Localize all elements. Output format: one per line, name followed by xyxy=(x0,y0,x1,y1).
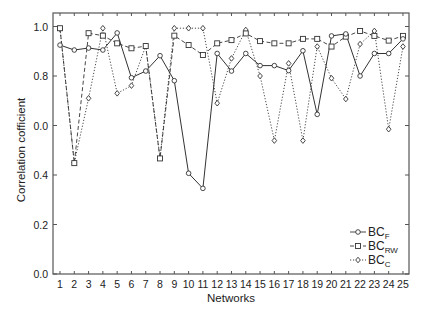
x-tick-label: 15 xyxy=(254,278,266,290)
x-tick-label: 18 xyxy=(297,278,309,290)
legend: BCFBCRWBCC xyxy=(350,225,398,269)
series-line xyxy=(60,28,403,162)
circle-marker-icon xyxy=(186,171,191,176)
x-tick-label: 11 xyxy=(197,278,208,290)
square-marker-icon xyxy=(200,52,205,57)
circle-marker-icon xyxy=(372,51,377,56)
circle-marker-icon xyxy=(401,37,406,42)
legend-item-bc-c: BCC xyxy=(350,253,391,269)
y-axis-label: Correlation cofficient xyxy=(15,97,27,202)
circle-marker-icon xyxy=(72,48,77,53)
correlation-line-chart: 0.00.20.40.00.81.01234567891011121314151… xyxy=(0,0,432,314)
diamond-marker-icon xyxy=(344,96,349,102)
diamond-marker-icon xyxy=(272,138,277,144)
square-marker-icon xyxy=(286,41,291,46)
diamond-marker-icon xyxy=(258,73,263,79)
y-tick-label: 0.0 xyxy=(33,268,48,280)
circle-marker-icon xyxy=(158,53,163,58)
x-tick-label: 10 xyxy=(183,278,195,290)
square-marker-icon xyxy=(258,39,263,44)
circle-marker-icon xyxy=(258,63,263,68)
diamond-marker-icon xyxy=(172,25,177,31)
x-tick-label: 21 xyxy=(340,278,352,290)
series-bc-c xyxy=(60,28,403,162)
x-tick-label: 25 xyxy=(397,278,409,290)
square-marker-icon xyxy=(329,44,334,49)
square-marker-icon xyxy=(215,41,220,46)
diamond-marker-icon xyxy=(215,100,220,106)
square-marker-icon xyxy=(58,26,63,31)
plot-series xyxy=(58,25,406,190)
diamond-marker-icon xyxy=(101,25,106,31)
square-marker-icon xyxy=(129,46,134,51)
y-tick-label: 1.0 xyxy=(33,21,48,33)
x-tick-label: 8 xyxy=(157,278,163,290)
plot-frame xyxy=(53,13,409,274)
circle-marker-icon xyxy=(172,78,177,83)
series-bc-rw xyxy=(60,28,403,163)
square-marker-icon xyxy=(229,38,234,43)
y-tick-label: 0.4 xyxy=(33,169,48,181)
x-tick-label: 5 xyxy=(114,278,120,290)
circle-marker-icon xyxy=(286,68,291,73)
x-tick-label: 22 xyxy=(354,278,366,290)
x-tick-label: 7 xyxy=(143,278,149,290)
x-tick-label: 14 xyxy=(240,278,252,290)
legend-label: BCC xyxy=(368,253,391,269)
circle-marker-icon xyxy=(58,43,63,48)
square-marker-icon xyxy=(186,43,191,48)
circle-marker-icon xyxy=(301,48,306,53)
series-markers xyxy=(58,26,406,166)
square-marker-icon xyxy=(172,33,177,38)
circle-marker-icon xyxy=(386,51,391,56)
diamond-marker-icon xyxy=(129,83,134,89)
square-marker-icon xyxy=(386,38,391,43)
diamond-marker-icon xyxy=(286,61,291,67)
square-marker-icon xyxy=(72,161,77,166)
x-tick-label: 19 xyxy=(311,278,323,290)
circle-marker-icon xyxy=(115,31,120,36)
diamond-marker-icon xyxy=(229,56,234,62)
diamond-marker-icon xyxy=(315,44,320,50)
x-tick-label: 24 xyxy=(383,278,395,290)
diamond-marker-icon xyxy=(186,25,191,31)
x-tick-label: 16 xyxy=(269,278,281,290)
x-tick-label: 13 xyxy=(226,278,238,290)
square-marker-icon xyxy=(158,156,163,161)
x-tick-label: 17 xyxy=(283,278,295,290)
series-line xyxy=(60,28,403,163)
x-tick-label: 9 xyxy=(171,278,177,290)
x-tick-label: 20 xyxy=(326,278,338,290)
square-marker-icon xyxy=(143,44,148,49)
diamond-marker-icon xyxy=(201,25,206,31)
y-tick-label: 0.0 xyxy=(33,120,48,132)
circle-marker-icon xyxy=(129,75,134,80)
square-marker-icon xyxy=(86,31,91,36)
circle-marker-icon xyxy=(329,34,334,39)
circle-marker-icon xyxy=(358,74,363,79)
legend-circle-icon xyxy=(356,230,361,235)
diamond-marker-icon xyxy=(301,138,306,144)
x-axis-label: Networks xyxy=(207,292,255,304)
circle-marker-icon xyxy=(315,112,320,117)
circle-marker-icon xyxy=(243,51,248,56)
circle-marker-icon xyxy=(272,63,277,68)
square-marker-icon xyxy=(243,31,248,36)
x-tick-label: 4 xyxy=(100,278,106,290)
diamond-marker-icon xyxy=(401,44,406,50)
circle-marker-icon xyxy=(143,69,148,74)
circle-marker-icon xyxy=(344,32,349,37)
square-marker-icon xyxy=(300,36,305,41)
square-marker-icon xyxy=(115,41,120,46)
circle-marker-icon xyxy=(201,186,206,191)
y-tick-label: 0.2 xyxy=(33,219,48,231)
x-tick-label: 3 xyxy=(86,278,92,290)
circle-marker-icon xyxy=(229,69,234,74)
circle-marker-icon xyxy=(215,51,220,56)
square-marker-icon xyxy=(372,33,377,38)
circle-marker-icon xyxy=(86,46,91,51)
square-marker-icon xyxy=(358,28,363,33)
legend-square-icon xyxy=(356,244,361,249)
square-marker-icon xyxy=(272,41,277,46)
diamond-marker-icon xyxy=(115,91,120,97)
